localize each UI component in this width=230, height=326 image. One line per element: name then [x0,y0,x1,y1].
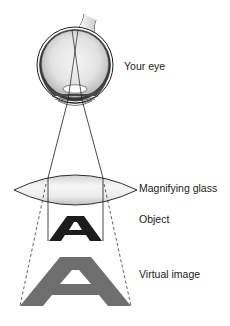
ray-left-eye-to-lens [48,100,68,178]
ray-right-eye-to-lens [82,100,103,178]
label-your-eye: Your eye [124,60,165,72]
virtual-image-letter-a [20,257,131,306]
label-object: Object [139,213,169,225]
eye [37,14,113,106]
label-virtual-image: Virtual image [139,268,200,280]
eye-lens [63,85,87,93]
magnifying-glass-lens [14,175,137,205]
label-magnifying-glass: Magnifying glass [139,182,217,194]
object-letter-a [49,216,102,241]
